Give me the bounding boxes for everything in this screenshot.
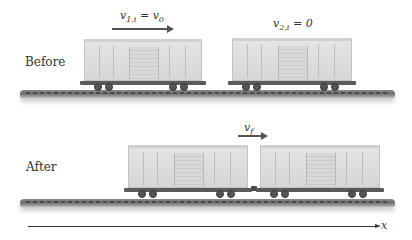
after-track [20,199,395,208]
boxcar-1-before [80,39,206,91]
before-label: Before [25,55,65,69]
car1-velocity-arrow [112,28,168,30]
x-axis-label: x [381,219,387,232]
car2-initial-velocity-label: v2,i = 0 [273,17,313,32]
collision-diagram: Before v1,i = v0 v2,i = 0 After vf x [0,0,412,240]
car1-initial-velocity-label: v1,i = v0 [120,9,164,24]
final-velocity-label: vf [244,121,253,136]
boxcar-2-after [256,145,384,198]
boxcar-2-before [228,38,356,91]
before-track [20,90,395,99]
boxcar-1-after [124,145,252,198]
after-label: After [26,160,57,174]
x-axis-arrow [28,226,376,227]
final-velocity-arrow [238,135,262,137]
